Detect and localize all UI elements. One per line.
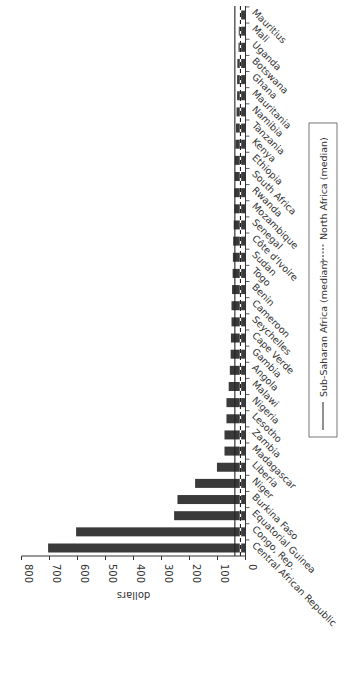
legend-label-north-africa: North Africa (median): [318, 137, 329, 240]
bar-central-african-republic: [48, 544, 245, 553]
value-tick-label-400: 400: [135, 564, 146, 583]
bar-malawi: [229, 382, 246, 391]
value-tick-label-0: 0: [247, 564, 258, 570]
bar-ghana: [237, 75, 245, 84]
bar-botswana: [237, 59, 245, 68]
bar-cape-verde: [231, 334, 246, 343]
value-tick-label-600: 600: [79, 564, 90, 583]
reference-lines: [235, 6, 241, 556]
bar-uganda: [239, 43, 246, 52]
value-tick-label-100: 100: [219, 564, 230, 583]
bar-mauritania: [237, 91, 245, 100]
value-tick-label-200: 200: [191, 564, 202, 583]
value-tick-label-300: 300: [163, 564, 174, 583]
bar-seychelles: [232, 317, 246, 326]
bar-niger: [195, 479, 245, 488]
bar-senegal: [234, 220, 246, 229]
y-axis-title: dollars: [117, 590, 150, 601]
bar-cameroon: [232, 301, 246, 310]
value-tick-label-500: 500: [107, 564, 118, 583]
bar-liberia: [217, 463, 246, 472]
legend-label-sub-saharan: Sub-Saharan Africa (median): [318, 260, 329, 397]
bars-group: [48, 11, 245, 553]
bar-gambia: [231, 350, 246, 359]
bar-benin: [232, 285, 245, 294]
bar-nigeria: [226, 398, 245, 407]
value-tick-label-800: 800: [23, 564, 34, 583]
bar-lesotho: [226, 414, 245, 423]
bar-mauritius: [240, 11, 245, 20]
bar-chart: 0100200300400500600700800 Central Africa…: [0, 0, 354, 680]
value-tick-label-700: 700: [51, 564, 62, 583]
bar-angola: [230, 366, 246, 375]
bar-congo-rep: [76, 527, 245, 536]
legend: Sub-Saharan Africa (median) North Africa…: [309, 123, 337, 437]
